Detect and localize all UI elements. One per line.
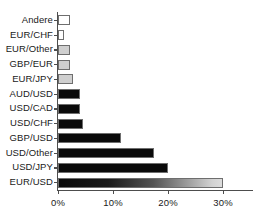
y-tick [54, 123, 58, 124]
y-label-gbp-eur: GBP/EUR [10, 59, 53, 69]
y-tick [54, 167, 58, 168]
bar-usd-chf [58, 119, 83, 129]
x-tick [168, 190, 169, 194]
y-tick [54, 49, 58, 50]
y-tick [54, 153, 58, 154]
y-label-eur-usd: EUR/USD [10, 177, 53, 187]
y-label-eur-jpy: EUR/JPY [12, 74, 53, 84]
bar-andere [58, 15, 70, 25]
y-label-eur-chf: EUR/CHF [10, 30, 53, 40]
y-label-usd-cad: USD/CAD [10, 103, 53, 113]
y-tick [54, 94, 58, 95]
y-tick [54, 182, 58, 183]
y-tick [54, 20, 58, 21]
x-tick-label-10pct: 10% [103, 197, 123, 208]
y-tick [54, 79, 58, 80]
y-label-usd-chf: USD/CHF [10, 118, 53, 128]
y-label-andere: Andere [22, 15, 53, 25]
bar-gbp-usd [58, 133, 121, 143]
y-label-aud-usd: AUD/USD [10, 89, 53, 99]
y-label-usd-jpy: USD/JPY [12, 162, 53, 172]
bar-eur-usd [58, 178, 223, 188]
x-tick-label-0pct: 0% [51, 197, 65, 208]
x-tick [58, 190, 59, 194]
y-tick [54, 138, 58, 139]
x-tick-label-20pct: 20% [158, 197, 178, 208]
bar-usd-jpy [58, 163, 168, 173]
plot-area [58, 13, 254, 190]
bar-eur-chf [58, 30, 64, 40]
bar-gbp-eur [58, 60, 70, 70]
bar-usd-other [58, 148, 154, 158]
y-tick [54, 35, 58, 36]
y-label-usd-other: USD/Other [6, 148, 53, 158]
bar-usd-cad [58, 104, 80, 114]
x-tick-label-30pct: 30% [213, 197, 233, 208]
y-label-gbp-usd: GBP/USD [10, 133, 53, 143]
bar-aud-usd [58, 89, 80, 99]
x-tick [113, 190, 114, 194]
bar-eur-jpy [58, 74, 73, 84]
bar-eur-other [58, 45, 70, 55]
x-tick [223, 190, 224, 194]
y-tick [54, 64, 58, 65]
y-tick [54, 108, 58, 109]
y-label-eur-other: EUR/Other [6, 44, 53, 54]
bar-chart: 0%10%20%30% AndereEUR/CHFEUR/OtherGBP/EU… [0, 0, 262, 224]
